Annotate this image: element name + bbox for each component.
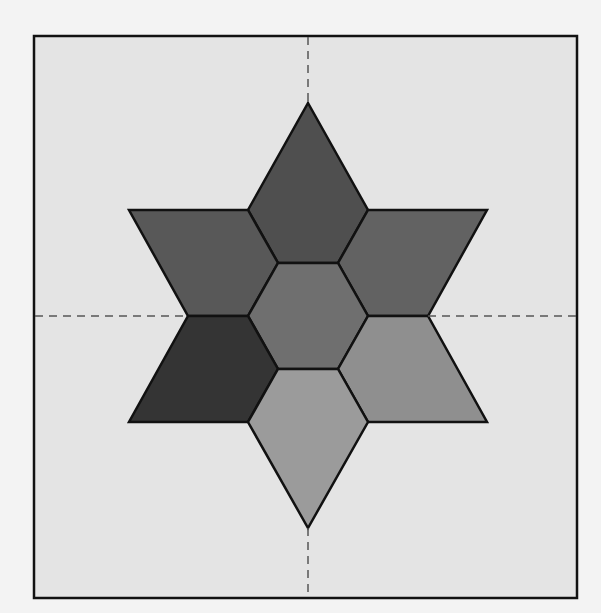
star-diagram — [0, 0, 601, 613]
